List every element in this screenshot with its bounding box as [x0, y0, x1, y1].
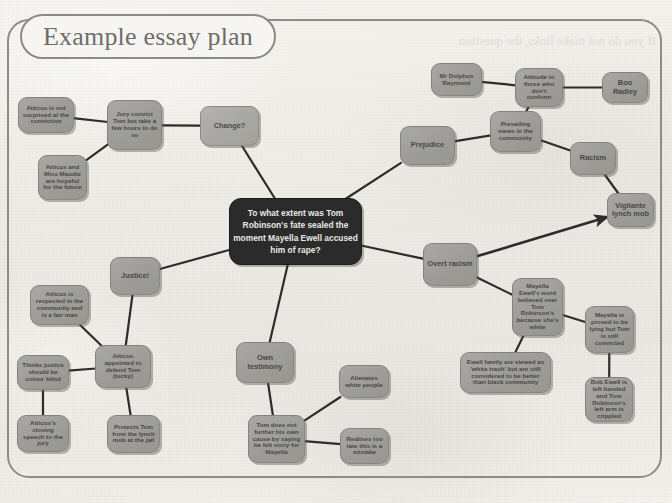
node-label-tom-felt-sorry: Tom does not further his own cause by sa… — [252, 422, 301, 457]
node-vigilante-lynch-mob[interactable]: Vigilante lynch mob — [607, 193, 654, 227]
node-label-boo-radley: Boo Radley — [606, 79, 644, 96]
node-label-protects-tom: Protects Tom from the lynch mob at the j… — [111, 424, 156, 445]
node-label-mr-dolphus-raymond: Mr Dolphus Raymond — [435, 73, 478, 87]
page-title-pill: Example essay plan — [20, 14, 276, 59]
node-boo-radley[interactable]: Boo Radley — [602, 72, 648, 103]
node-atticus-not-surprised[interactable]: Atticus is not surprised at the convicti… — [18, 97, 74, 133]
node-label-bob-ewell-left-handed: Bob Ewell is left handed and Tom Robinso… — [589, 379, 629, 421]
node-label-atticus-appointed: Atticus appointed to defend Tom (lucky) — [99, 353, 147, 381]
edge-atticus-appointed-to-atticus-respected — [79, 324, 102, 346]
edge-attitude-nonconform-to-mr-dolphus-raymond — [481, 82, 516, 85]
edge-atticus-appointed-to-protects-tom — [126, 387, 131, 416]
node-label-atticus-not-surprised: Atticus is not surprised at the convicti… — [22, 105, 70, 126]
node-attitude-nonconform[interactable]: Attitude to those who don't conform — [515, 68, 563, 107]
node-label-mayella-word-believed: Mayella Ewell's word believed over Tom R… — [516, 283, 559, 332]
essay-plan-mindmap-page: Example essay plan If you do not make li… — [0, 0, 672, 503]
node-label-prejudice: Prejudice — [404, 141, 451, 149]
node-atticus-respected[interactable]: Atticus is respected in the community an… — [30, 285, 89, 325]
node-own-testimony[interactable]: Own testimony — [236, 342, 294, 383]
node-label-atticus-maudie-hopeful: Atticus and Miss Maudie are hopeful for … — [42, 164, 83, 192]
node-overt-racism[interactable]: Overt racism — [423, 243, 477, 286]
node-tom-felt-sorry[interactable]: Tom does not further his own cause by sa… — [248, 415, 305, 463]
node-atticus-maudie-hopeful[interactable]: Atticus and Miss Maudie are hopeful for … — [38, 155, 87, 200]
node-prejudice[interactable]: Prejudice — [400, 126, 455, 165]
edge-racism-to-vigilante-lynch-mob — [604, 174, 619, 194]
node-label-justice-colour-blind: Thinks justice should be colour blind — [21, 362, 65, 383]
page-title: Example essay plan — [43, 22, 253, 52]
node-mayella-word-believed[interactable]: Mayella Ewell's word believed over Tom R… — [512, 278, 563, 336]
edge-mayella-word-believed-to-mayella-proved-lying — [562, 315, 586, 323]
node-mr-dolphus-raymond[interactable]: Mr Dolphus Raymond — [431, 63, 482, 96]
edge-atticus-appointed-to-justice-colour-blind — [68, 369, 96, 371]
node-justice[interactable]: Justice! — [110, 257, 160, 295]
edge-tom-felt-sorry-to-alienates-white — [304, 397, 340, 421]
node-label-mayella-proved-lying: Mayella is proved to be lying but Tom is… — [589, 312, 630, 347]
node-label-attitude-nonconform: Attitude to those who don't conform — [519, 74, 559, 102]
edge-justice-to-atticus-appointed — [126, 294, 133, 346]
node-jury-convict[interactable]: Jury convict Tom but take a few hours to… — [107, 100, 162, 150]
edge-central-question-to-overt-racism — [361, 246, 424, 259]
edge-central-question-to-justice — [159, 250, 230, 270]
node-label-closing-speech: Atticus's closing speech to the jury — [21, 420, 65, 448]
node-change[interactable]: Change? — [200, 106, 259, 146]
node-label-alienates-white: Alienates white people — [343, 375, 385, 389]
node-label-realises-mistake: Realises too late this is a mistake — [344, 436, 385, 457]
edge-jury-convict-to-atticus-not-surprised — [73, 118, 108, 122]
node-justice-colour-blind[interactable]: Thinks justice should be colour blind — [17, 355, 69, 390]
node-mayella-proved-lying[interactable]: Mayella is proved to be lying but Tom is… — [585, 306, 634, 353]
edge-prevailing-views-to-racism — [540, 140, 571, 151]
node-protects-tom[interactable]: Protects Tom from the lynch mob at the j… — [107, 415, 160, 453]
edge-overt-racism-to-mayella-word-believed — [476, 277, 513, 295]
node-realises-mistake[interactable]: Realises too late this is a mistake — [340, 428, 389, 464]
node-label-central-question: To what extent was Tom Robinson's fate s… — [233, 207, 358, 256]
node-label-jury-convict: Jury convict Tom but take a few hours to… — [111, 111, 158, 139]
edge-mayella-word-believed-to-ewell-white-trash — [515, 335, 524, 353]
node-label-racism: Racism — [574, 154, 612, 162]
bleed-through-text: If you do not make links, the question — [380, 33, 656, 49]
node-alienates-white[interactable]: Alienates white people — [339, 365, 389, 398]
node-label-justice: Justice! — [114, 272, 156, 280]
node-label-vigilante-lynch-mob: Vigilante lynch mob — [611, 202, 650, 219]
node-label-own-testimony: Own testimony — [240, 354, 290, 371]
node-bob-ewell-left-handed[interactable]: Bob Ewell is left handed and Tom Robinso… — [585, 377, 633, 422]
edge-tom-felt-sorry-to-realises-mistake — [304, 441, 341, 444]
node-ewell-white-trash[interactable]: Ewell family are viewed as 'white trash'… — [460, 352, 551, 393]
node-racism[interactable]: Racism — [570, 142, 616, 175]
node-prevailing-views[interactable]: Prevailing views in the community — [490, 111, 541, 152]
node-label-overt-racism: Overt racism — [427, 260, 473, 268]
node-label-atticus-respected: Atticus is respected in the community an… — [34, 291, 85, 319]
node-label-prevailing-views: Prevailing views in the community — [494, 121, 537, 142]
node-central-question[interactable]: To what extent was Tom Robinson's fate s… — [229, 198, 362, 265]
node-closing-speech[interactable]: Atticus's closing speech to the jury — [17, 415, 69, 452]
edge-central-question-to-own-testimony — [270, 264, 288, 343]
edge-prejudice-to-prevailing-views — [454, 135, 491, 141]
edge-central-question-to-prejudice — [345, 163, 401, 199]
node-label-ewell-white-trash: Ewell family are viewed as 'white trash'… — [464, 359, 547, 387]
node-atticus-appointed[interactable]: Atticus appointed to defend Tom (lucky) — [95, 345, 151, 388]
edge-overt-racism-to-vigilante-lynch-mob — [476, 217, 608, 257]
edge-own-testimony-to-tom-felt-sorry — [268, 382, 273, 416]
edge-central-question-to-change — [241, 145, 275, 199]
edge-jury-convict-to-atticus-maudie-hopeful — [86, 144, 108, 160]
node-label-change: Change? — [204, 122, 255, 130]
